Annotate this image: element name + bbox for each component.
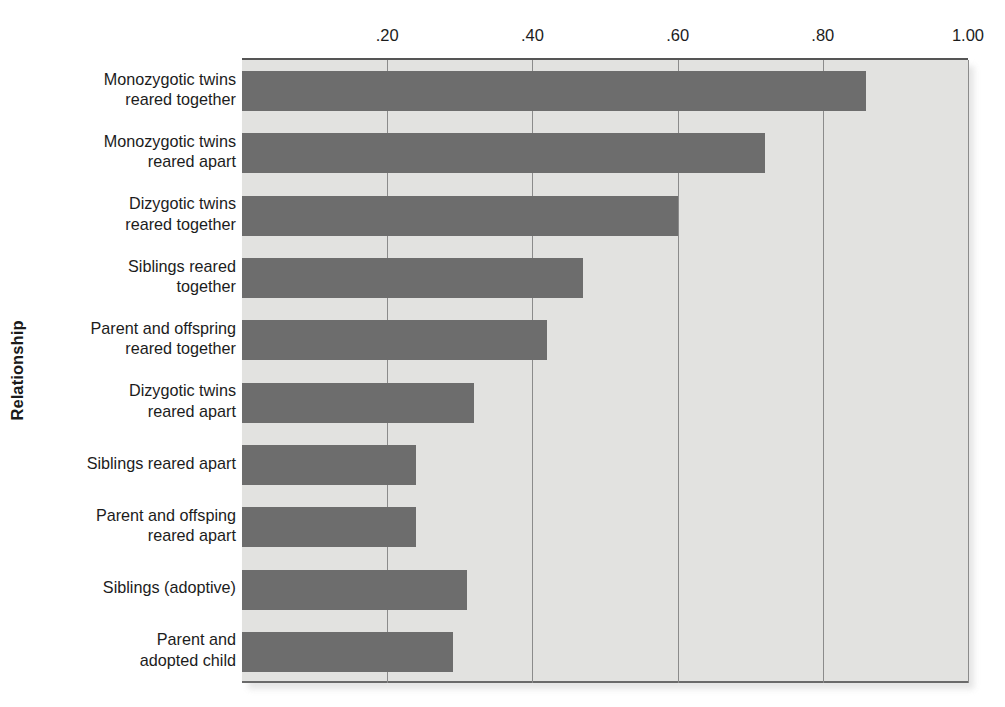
bar [242,570,467,610]
bar [242,196,678,236]
x-tick-label: .60 [666,26,689,45]
category-label: Siblings reared apart [36,453,236,474]
y-axis-title: Relationship [0,300,34,440]
bar [242,71,866,111]
category-label: Parent and offsping reared apart [36,505,236,546]
bar [242,133,765,173]
category-label: Siblings (adoptive) [36,577,236,598]
x-axis-tick-labels: .20.40.60.801.00 [0,26,1005,52]
bar [242,445,416,485]
category-label: Dizygotic twins reared together [36,193,236,234]
bar [242,383,474,423]
y-axis-category-labels: Monozygotic twins reared togetherMonozyg… [36,58,236,681]
x-tick-label: 1.00 [952,26,984,45]
plot-bottom-rule [242,681,968,683]
category-label: Parent and adopted child [36,629,236,670]
bar [242,320,547,360]
category-label: Siblings reared together [36,256,236,297]
bar [242,632,453,672]
category-label: Monozygotic twins reared apart [36,131,236,172]
category-label: Monozygotic twins reared together [36,69,236,110]
x-tick-label: .20 [376,26,399,45]
x-tick-label: .40 [521,26,544,45]
bar-chart-figure: .20.40.60.801.00 Relationship Monozygoti… [0,0,1005,707]
gridline-80 [823,60,824,683]
y-axis-title-text: Relationship [8,320,27,420]
plot-area [242,58,968,683]
category-label: Parent and offspring reared together [36,318,236,359]
gridline-100 [968,60,969,683]
bar [242,507,416,547]
bar [242,258,583,298]
category-label: Dizygotic twins reared apart [36,380,236,421]
x-tick-label: .80 [811,26,834,45]
